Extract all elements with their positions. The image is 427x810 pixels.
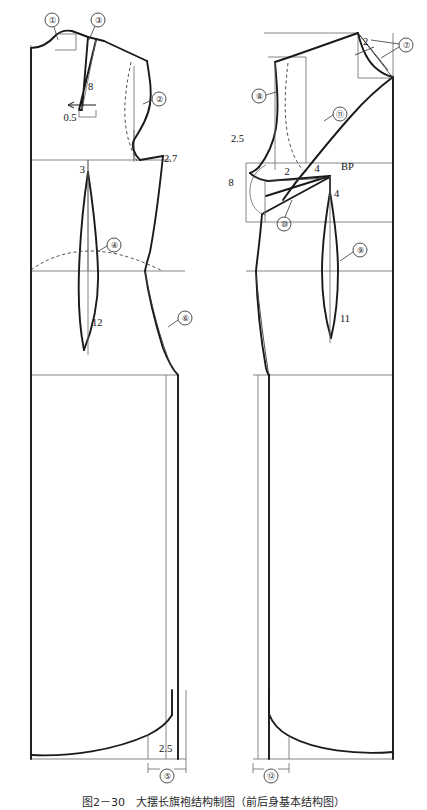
back-construction-lines xyxy=(31,34,186,759)
pattern-drawing: 8 0.5 2.7 3 12 2.5 ① ③ ② xyxy=(0,0,427,810)
marker-8: ⑧ xyxy=(252,89,276,103)
svg-text:⑪: ⑪ xyxy=(336,110,344,119)
marker-5: ⑤ xyxy=(160,769,174,783)
marker-6: ⑥ xyxy=(168,311,192,327)
front-shoulder-guide xyxy=(285,63,303,170)
marker-4: ④ xyxy=(97,238,121,252)
back-panel: 8 0.5 2.7 3 12 2.5 ① ③ ② xyxy=(31,13,192,783)
back-armhole-notch-label: 2.7 xyxy=(164,153,177,164)
back-dart-shift-label: 0.5 xyxy=(63,112,76,123)
bust-point-label: BP xyxy=(341,161,354,172)
pattern-figure: 8 0.5 2.7 3 12 2.5 ① ③ ② xyxy=(0,0,427,810)
front-upper-outline xyxy=(250,33,393,759)
marker-7: ⑦ xyxy=(371,38,413,58)
marker-2: ② xyxy=(143,92,166,106)
svg-text:①: ① xyxy=(49,16,56,25)
marker-3: ③ xyxy=(89,13,105,40)
marker-11: ⑪ xyxy=(324,107,347,121)
front-waist-dart-length-label: 11 xyxy=(340,313,350,324)
back-waist-dart-length-label: 12 xyxy=(92,317,103,328)
front-side-dart-length-label: 8 xyxy=(228,177,233,188)
svg-text:⑥: ⑥ xyxy=(182,314,189,323)
back-hem xyxy=(31,690,186,773)
front-hem xyxy=(253,690,393,773)
svg-text:④: ④ xyxy=(111,241,118,250)
front-bust-dart-lower-label: 4 xyxy=(334,188,340,199)
svg-text:⑦: ⑦ xyxy=(403,41,410,50)
back-armhole-guide xyxy=(125,62,137,161)
back-hem-extension-label: 2.5 xyxy=(159,743,172,754)
back-upper-outline xyxy=(31,31,163,759)
front-bust-dart-upper-label: 4 xyxy=(314,163,320,174)
svg-text:⑩: ⑩ xyxy=(281,220,288,229)
back-waist-dart-top-label: 3 xyxy=(80,164,85,175)
front-side-value-label: 2 xyxy=(284,166,289,177)
svg-text:②: ② xyxy=(156,95,163,104)
front-side-seam xyxy=(256,271,269,759)
back-side-seam xyxy=(145,156,178,759)
marker-1: ① xyxy=(45,13,59,40)
back-dart-length-label: 8 xyxy=(88,81,93,92)
front-panel: 2 2.5 2 8 4 4 BP 11 ⑦ ⑧ ⑪ xyxy=(228,33,413,783)
marker-9: ⑨ xyxy=(340,243,367,261)
marker-12: ⑫ xyxy=(264,769,278,783)
svg-text:⑨: ⑨ xyxy=(357,246,364,255)
svg-text:③: ③ xyxy=(95,16,102,25)
front-shoulder-drop-label: 2.5 xyxy=(231,133,244,144)
front-neck-corner-label: 2 xyxy=(363,36,368,47)
svg-text:⑤: ⑤ xyxy=(164,772,171,781)
front-waist-dart xyxy=(322,176,338,343)
svg-text:⑧: ⑧ xyxy=(256,92,263,101)
svg-text:⑫: ⑫ xyxy=(267,772,275,781)
figure-caption: 图2－30 大摆长旗袍结构制图（前后身基本结构图） xyxy=(0,793,427,809)
